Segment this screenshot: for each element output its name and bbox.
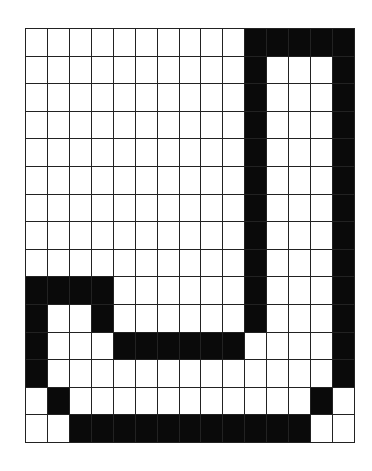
grid-cell-r9-c12 <box>289 277 311 305</box>
grid-cell-r14-c0 <box>26 415 48 443</box>
grid-cell-r10-c4 <box>114 305 136 333</box>
grid-cell-r9-c2 <box>70 277 92 305</box>
grid-cell-r10-c14 <box>333 305 355 333</box>
grid-cell-r14-c12 <box>289 415 311 443</box>
grid-cell-r6-c2 <box>70 195 92 223</box>
grid-cell-r3-c4 <box>114 112 136 140</box>
grid-cell-r1-c11 <box>267 57 289 85</box>
grid-cell-r14-c14 <box>333 415 355 443</box>
grid-cell-r4-c8 <box>201 139 223 167</box>
grid-cell-r5-c8 <box>201 167 223 195</box>
grid-cell-r8-c8 <box>201 250 223 278</box>
grid-cell-r0-c12 <box>289 29 311 57</box>
grid-cell-r7-c8 <box>201 222 223 250</box>
grid-cell-r13-c1 <box>48 388 70 416</box>
grid-cell-r10-c5 <box>136 305 158 333</box>
grid-cell-r6-c14 <box>333 195 355 223</box>
grid-cell-r1-c4 <box>114 57 136 85</box>
grid-cell-r2-c10 <box>245 84 267 112</box>
grid-cell-r4-c2 <box>70 139 92 167</box>
grid-cell-r2-c4 <box>114 84 136 112</box>
grid-cell-r8-c1 <box>48 250 70 278</box>
grid-cell-r13-c8 <box>201 388 223 416</box>
grid-cell-r12-c4 <box>114 360 136 388</box>
grid-cell-r5-c5 <box>136 167 158 195</box>
grid-cell-r7-c2 <box>70 222 92 250</box>
grid-cell-r11-c7 <box>180 333 202 361</box>
grid-cell-r1-c5 <box>136 57 158 85</box>
grid-cell-r10-c7 <box>180 305 202 333</box>
grid-cell-r10-c2 <box>70 305 92 333</box>
grid-cell-r8-c7 <box>180 250 202 278</box>
grid-cell-r14-c4 <box>114 415 136 443</box>
grid-cell-r12-c3 <box>92 360 114 388</box>
grid-cell-r1-c2 <box>70 57 92 85</box>
grid-cell-r10-c13 <box>311 305 333 333</box>
grid-cell-r7-c5 <box>136 222 158 250</box>
grid-cell-r6-c1 <box>48 195 70 223</box>
grid-cell-r11-c14 <box>333 333 355 361</box>
grid-cell-r5-c14 <box>333 167 355 195</box>
grid-cell-r5-c13 <box>311 167 333 195</box>
grid-cell-r11-c13 <box>311 333 333 361</box>
grid-cell-r3-c6 <box>158 112 180 140</box>
grid-cell-r1-c7 <box>180 57 202 85</box>
grid-cell-r7-c10 <box>245 222 267 250</box>
grid-cell-r3-c10 <box>245 112 267 140</box>
grid-cell-r3-c0 <box>26 112 48 140</box>
grid-cell-r5-c10 <box>245 167 267 195</box>
grid-cell-r9-c14 <box>333 277 355 305</box>
grid-cell-r13-c13 <box>311 388 333 416</box>
grid-cell-r4-c6 <box>158 139 180 167</box>
grid-cell-r14-c11 <box>267 415 289 443</box>
grid-cell-r2-c5 <box>136 84 158 112</box>
grid-cell-r10-c11 <box>267 305 289 333</box>
grid-cell-r3-c11 <box>267 112 289 140</box>
grid-cell-r2-c6 <box>158 84 180 112</box>
grid-cell-r4-c3 <box>92 139 114 167</box>
grid-cell-r14-c1 <box>48 415 70 443</box>
grid-cell-r6-c0 <box>26 195 48 223</box>
grid-cell-r8-c13 <box>311 250 333 278</box>
grid-cell-r8-c14 <box>333 250 355 278</box>
grid-cell-r13-c5 <box>136 388 158 416</box>
grid-cell-r12-c2 <box>70 360 92 388</box>
grid-cell-r10-c10 <box>245 305 267 333</box>
grid-cell-r12-c10 <box>245 360 267 388</box>
grid-cell-r2-c2 <box>70 84 92 112</box>
grid-cell-r11-c8 <box>201 333 223 361</box>
grid-cell-r10-c8 <box>201 305 223 333</box>
grid-cell-r13-c10 <box>245 388 267 416</box>
grid-cell-r0-c1 <box>48 29 70 57</box>
grid-cell-r11-c6 <box>158 333 180 361</box>
grid-cell-r11-c11 <box>267 333 289 361</box>
grid-cell-r0-c8 <box>201 29 223 57</box>
grid-cell-r6-c13 <box>311 195 333 223</box>
grid-cell-r7-c0 <box>26 222 48 250</box>
grid-cell-r3-c14 <box>333 112 355 140</box>
grid-cell-r0-c13 <box>311 29 333 57</box>
grid-cell-r9-c9 <box>223 277 245 305</box>
grid-cell-r4-c13 <box>311 139 333 167</box>
grid-cell-r3-c9 <box>223 112 245 140</box>
grid-cell-r1-c10 <box>245 57 267 85</box>
grid-cell-r5-c2 <box>70 167 92 195</box>
grid-cell-r11-c12 <box>289 333 311 361</box>
grid-cell-r9-c5 <box>136 277 158 305</box>
grid-cell-r3-c8 <box>201 112 223 140</box>
grid-cell-r0-c14 <box>333 29 355 57</box>
grid-cell-r0-c7 <box>180 29 202 57</box>
grid-cell-r6-c4 <box>114 195 136 223</box>
grid-cell-r3-c7 <box>180 112 202 140</box>
grid-cell-r14-c7 <box>180 415 202 443</box>
grid-cell-r13-c3 <box>92 388 114 416</box>
grid-cell-r2-c11 <box>267 84 289 112</box>
grid-cell-r8-c4 <box>114 250 136 278</box>
grid-cell-r3-c13 <box>311 112 333 140</box>
grid-cell-r9-c0 <box>26 277 48 305</box>
grid-cell-r11-c5 <box>136 333 158 361</box>
grid-cell-r13-c7 <box>180 388 202 416</box>
grid-cell-r0-c9 <box>223 29 245 57</box>
grid-cell-r2-c7 <box>180 84 202 112</box>
grid-cell-r6-c5 <box>136 195 158 223</box>
